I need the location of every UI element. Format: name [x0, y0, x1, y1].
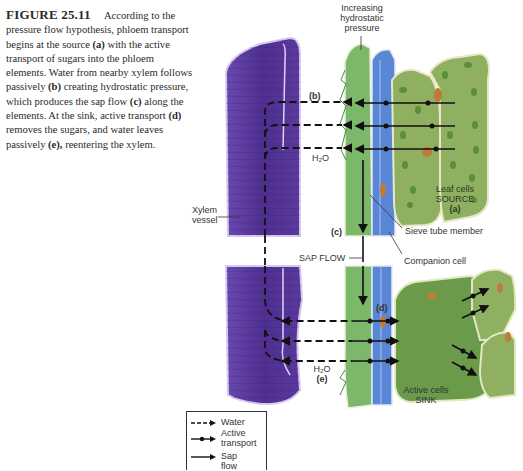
xylem-vessel-upper — [226, 38, 300, 236]
label-leaf-cells-source: Leaf cells SOURCE (a) — [425, 184, 485, 214]
legend-item-water: Water — [191, 418, 217, 428]
label-line: Leaf cells — [425, 184, 485, 194]
legend-label-line: Active — [221, 428, 246, 438]
label-line: pressure — [331, 23, 393, 33]
label-line: H₂O — [310, 364, 334, 374]
legend-label: Active transport — [221, 429, 257, 448]
label-companion-cell: Companion cell — [404, 256, 466, 266]
companion-cell-upper — [372, 50, 395, 236]
label-b: (b) — [309, 91, 321, 101]
label-sieve-tube-member: Sieve tube member — [405, 226, 483, 236]
legend-label: Water — [221, 418, 245, 428]
label-c: (c) — [331, 227, 342, 237]
label-sap-flow: SAP FLOW — [299, 253, 345, 263]
label-line: Increasing — [331, 3, 393, 13]
xylem-vessel-lower — [226, 266, 302, 404]
dot-arrow-icon — [191, 435, 217, 443]
label-active-cells-sink: Active cells SINK — [396, 385, 456, 405]
label-h2o-top: H₂O — [312, 153, 329, 163]
label-line: Active cells — [396, 385, 456, 395]
active-cells-sink — [395, 270, 515, 402]
sieve-tube-upper — [340, 44, 372, 236]
label-h2o-e: H₂O (e) — [310, 364, 334, 384]
label-line: SINK — [396, 395, 456, 405]
label-line: SOURCE — [425, 194, 485, 204]
label-d: (d) — [376, 303, 388, 313]
solid-arrow-icon — [191, 453, 217, 461]
label-increasing-pressure: Increasing hydrostatic pressure — [331, 3, 393, 33]
label-line: hydrostatic — [331, 13, 393, 23]
label-line: Xylem — [192, 205, 218, 215]
label-xylem-vessel: Xylem vessel — [192, 205, 218, 225]
dashed-arrow-icon — [191, 419, 217, 427]
companion-cell-lower — [372, 266, 392, 405]
legend: Water Active transport Sap flow — [186, 411, 267, 470]
legend-label-line: transport — [221, 438, 257, 448]
legend-item-sap-flow: Sap flow — [191, 452, 217, 462]
label-line: (e) — [310, 374, 334, 384]
legend-label: Sap flow — [221, 452, 237, 471]
sieve-tube-lower — [340, 266, 372, 408]
label-line: (a) — [425, 204, 485, 214]
label-line: vessel — [192, 215, 218, 225]
